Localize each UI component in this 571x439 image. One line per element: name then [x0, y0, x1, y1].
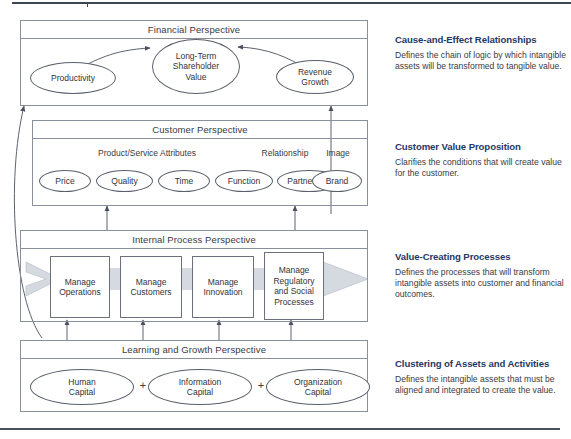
node-label: Manage Regulatory and Social Processes: [273, 265, 314, 307]
node-quality: Quality: [96, 170, 153, 192]
node-label: Function: [228, 176, 261, 187]
node-function: Function: [215, 170, 273, 192]
node-brand: Brand: [312, 170, 362, 192]
node-label: Revenue Growth: [298, 67, 332, 88]
node-label: Manage Operations: [59, 277, 101, 298]
node-label: Quality: [111, 176, 137, 187]
node-time: Time: [158, 170, 210, 192]
annotation-title: Clustering of Assets and Activities: [395, 358, 567, 369]
node-human-capital: Human Capital: [30, 369, 134, 405]
node-manage-innovation: Manage Innovation: [192, 256, 254, 318]
group-label-image: Image: [316, 148, 360, 158]
node-productivity: Productivity: [30, 62, 116, 94]
strategy-map-diagram: Financial Perspective Productivity Long-…: [0, 0, 392, 439]
annotation-column: Cause-and-Effect Relationships Defines t…: [395, 0, 571, 439]
annotation-title: Cause-and-Effect Relationships: [395, 34, 567, 45]
annotation-clustering-of-assets: Clustering of Assets and Activities Defi…: [395, 358, 567, 396]
annotation-body: Defines the intangible assets that must …: [395, 374, 567, 396]
group-label-relationship: Relationship: [250, 148, 320, 158]
node-label: Information Capital: [179, 377, 222, 398]
node-manage-operations: Manage Operations: [50, 256, 110, 318]
node-label: Brand: [326, 176, 349, 187]
annotation-body: Defines the chain of logic by which inta…: [395, 50, 567, 72]
node-label: Organization Capital: [294, 377, 342, 398]
annotation-value-creating-processes: Value-Creating Processes Defines the pro…: [395, 251, 567, 301]
node-label: Time: [175, 176, 194, 187]
node-manage-customers: Manage Customers: [120, 256, 182, 318]
annotation-body: Defines the processes that will transfor…: [395, 267, 567, 301]
node-label: Long-Term Shareholder Value: [173, 51, 219, 83]
panel-title-internal-process: Internal Process Perspective: [21, 231, 367, 249]
panel-title-learning-and-growth: Learning and Growth Perspective: [21, 341, 367, 359]
panel-title-customer: Customer Perspective: [33, 121, 367, 139]
node-long-term-shareholder-value: Long-Term Shareholder Value: [152, 39, 240, 94]
annotation-title: Customer Value Proposition: [395, 141, 567, 152]
node-label: Manage Customers: [130, 277, 171, 298]
node-revenue-growth: Revenue Growth: [276, 60, 354, 94]
node-information-capital: Information Capital: [148, 369, 252, 405]
node-label: Human Capital: [68, 377, 95, 398]
node-price: Price: [39, 170, 91, 192]
node-label: Manage Innovation: [203, 277, 242, 298]
node-organization-capital: Organization Capital: [266, 369, 370, 405]
panel-customer-perspective: Customer Perspective: [32, 120, 368, 206]
panel-title-financial: Financial Perspective: [21, 21, 367, 39]
group-label-product-service-attributes: Product/Service Attributes: [52, 148, 242, 158]
node-label: Productivity: [51, 73, 95, 84]
node-label: Price: [55, 176, 74, 187]
annotation-body: Clarifies the conditions that will creat…: [395, 157, 567, 179]
annotation-cause-and-effect: Cause-and-Effect Relationships Defines t…: [395, 34, 567, 72]
node-manage-regulatory-and-social-processes: Manage Regulatory and Social Processes: [264, 252, 324, 320]
annotation-title: Value-Creating Processes: [395, 251, 567, 262]
annotation-customer-value-proposition: Customer Value Proposition Clarifies the…: [395, 141, 567, 179]
